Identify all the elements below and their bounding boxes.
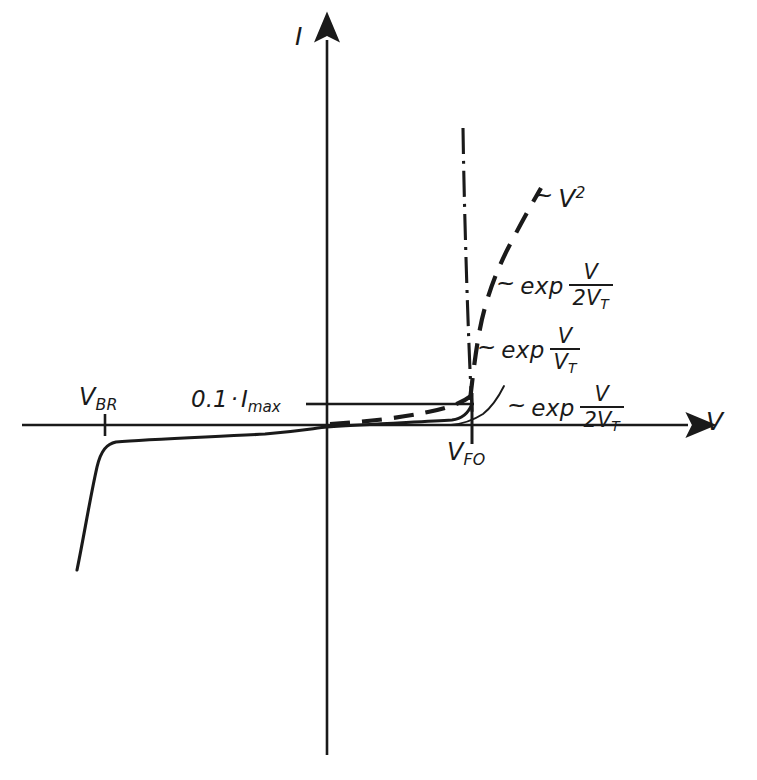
vbr-symbol: V	[79, 383, 95, 411]
denominator-coefficient: 2	[584, 408, 597, 432]
vfo-symbol: V	[447, 438, 463, 466]
fraction: V 2VT	[569, 261, 613, 312]
x-axis-label: V	[706, 409, 723, 434]
curve-dashdot-asymptote	[463, 128, 472, 412]
imax-prefix: 0.1	[191, 386, 228, 412]
tilde-symbol: ~	[477, 336, 496, 359]
denominator-coefficient: 2	[573, 286, 586, 310]
vbr-subscript: BR	[95, 395, 117, 414]
iv-characteristic-figure: I V VBR VFO 0.1·Imax ~ V2 ~ exp V 2VT ~ …	[0, 0, 757, 780]
imax-subscript: max	[248, 398, 281, 416]
annotation-exp-2vt-low: ~ exp V 2VT	[507, 383, 624, 434]
denominator-symbol: V	[597, 408, 611, 432]
fraction-denominator: VT	[550, 348, 581, 376]
tick-label-vbr: VBR	[79, 385, 118, 413]
annotation-exp-2vt-high: ~ exp V 2VT	[496, 261, 613, 312]
fraction-denominator: 2VT	[580, 406, 624, 434]
tick-label-vfo: VFO	[447, 440, 485, 468]
fraction-numerator: V	[579, 261, 601, 284]
exp-keyword: exp	[520, 275, 563, 298]
denominator-subscript: T	[568, 360, 576, 376]
imax-symbol: I	[241, 386, 248, 412]
current-level-label: 0.1·Imax	[191, 388, 281, 415]
fraction: V 2VT	[580, 383, 624, 434]
fraction-numerator: V	[590, 383, 612, 406]
denominator-symbol: V	[554, 350, 568, 374]
curve-main-characteristic	[77, 404, 472, 570]
fraction-denominator: 2VT	[569, 284, 613, 312]
exp-keyword: exp	[531, 397, 574, 420]
tilde-symbol: ~	[534, 184, 553, 207]
annotation-exp-vt: ~ exp V VT	[477, 325, 580, 376]
denominator-symbol: V	[586, 286, 600, 310]
denominator-subscript: T	[600, 296, 608, 312]
fraction: V VT	[550, 325, 581, 376]
fraction-numerator: V	[554, 325, 576, 348]
square-law-exponent: 2	[575, 184, 585, 202]
y-axis-label: I	[295, 24, 302, 49]
imax-multiplication-dot: ·	[228, 386, 241, 412]
tilde-symbol: ~	[496, 272, 515, 295]
vfo-subscript: FO	[463, 450, 485, 469]
exp-keyword: exp	[501, 339, 544, 362]
denominator-subscript: T	[611, 418, 619, 434]
tilde-symbol: ~	[507, 394, 526, 417]
square-law-expression: V2	[558, 186, 585, 211]
annotation-square-law: ~ V2	[534, 186, 585, 211]
square-law-base: V	[558, 184, 575, 213]
